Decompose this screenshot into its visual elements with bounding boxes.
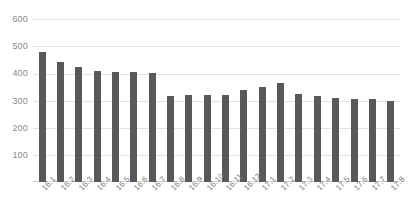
bar (314, 96, 321, 182)
x-axis-tick: 16.1 (33, 183, 51, 219)
x-axis-tick: 16.2 (51, 183, 69, 219)
bar-chart: 100200300400500600 16.116.216.316.416.51… (0, 0, 414, 219)
bar (94, 71, 101, 182)
bar (57, 62, 64, 182)
x-axis-tick: 16.7 (143, 183, 161, 219)
bar-slot (271, 19, 289, 182)
x-axis-tick: 17.6 (345, 183, 363, 219)
bar (332, 98, 339, 182)
y-axis-tick-label: 200 (0, 123, 28, 133)
x-axis: 16.116.216.316.416.516.616.716.816.916.1… (33, 183, 400, 219)
y-axis-tick-label: 500 (0, 41, 28, 51)
bar-slot (125, 19, 143, 182)
bar-slot (382, 19, 400, 182)
bar (369, 99, 376, 182)
x-axis-tick: 17.4 (308, 183, 326, 219)
bar-slot (161, 19, 179, 182)
x-axis-tick: 17.1 (253, 183, 271, 219)
bar (167, 96, 174, 182)
bar (39, 52, 46, 182)
bar-series (33, 19, 400, 182)
bar (185, 95, 192, 182)
x-axis-tick: 16.3 (70, 183, 88, 219)
bar (240, 90, 247, 182)
bar-slot (290, 19, 308, 182)
bar-slot (51, 19, 69, 182)
y-axis-tick-label: 600 (0, 14, 28, 24)
bar-slot (235, 19, 253, 182)
bar-slot (345, 19, 363, 182)
bar (259, 87, 266, 182)
y-axis-tick-label: 100 (0, 150, 28, 160)
x-axis-tick: 17.3 (290, 183, 308, 219)
bar (295, 94, 302, 182)
x-axis-tick: 17.2 (271, 183, 289, 219)
y-axis-tick-label: 400 (0, 68, 28, 78)
bar-slot (143, 19, 161, 182)
bar-slot (363, 19, 381, 182)
bar (222, 95, 229, 182)
bar-slot (33, 19, 51, 182)
bar (130, 72, 137, 182)
bar-slot (198, 19, 216, 182)
bar-slot (216, 19, 234, 182)
x-axis-tick: 16.5 (106, 183, 124, 219)
bar (112, 72, 119, 182)
x-axis-tick: 16.8 (161, 183, 179, 219)
bar-slot (327, 19, 345, 182)
bar (351, 99, 358, 182)
bar-slot (253, 19, 271, 182)
bar (277, 83, 284, 182)
x-axis-tick: 17.8 (382, 183, 400, 219)
x-axis-tick: 16.9 (180, 183, 198, 219)
x-axis-tick: 16.6 (125, 183, 143, 219)
bar-slot (106, 19, 124, 182)
bar-slot (180, 19, 198, 182)
bar-slot (88, 19, 106, 182)
x-axis-tick: 17.5 (327, 183, 345, 219)
bar (387, 101, 394, 183)
x-axis-tick: 16.4 (88, 183, 106, 219)
x-axis-tick: 17.7 (363, 183, 381, 219)
bar-slot (308, 19, 326, 182)
bar-slot (70, 19, 88, 182)
bar (149, 73, 156, 182)
x-axis-tick: 16.11 (216, 183, 234, 219)
bar (204, 95, 211, 182)
bar (75, 67, 82, 182)
x-axis-tick: 16.12 (235, 183, 253, 219)
x-axis-tick: 16.10 (198, 183, 216, 219)
y-axis-tick-label: 300 (0, 96, 28, 106)
